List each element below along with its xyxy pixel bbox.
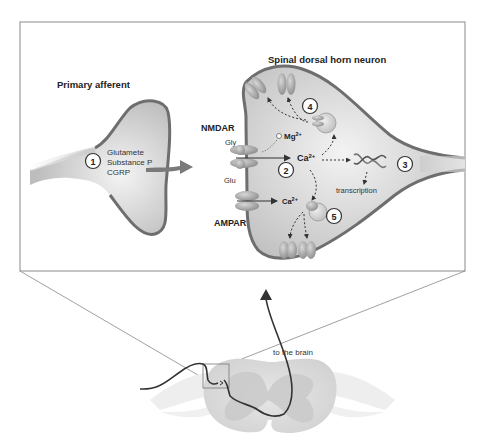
step-1-badge: 1 — [86, 154, 101, 169]
svg-text:5: 5 — [331, 212, 336, 222]
mg-ion-icon — [277, 134, 282, 139]
step-2-badge: 2 — [279, 163, 294, 178]
zoom-line-left — [20, 271, 203, 378]
svg-text:1: 1 — [90, 157, 95, 167]
step-5-badge: 5 — [327, 209, 342, 224]
transmitter-substance-p: Substance P — [107, 158, 152, 167]
to-brain-arrowhead-icon — [260, 289, 272, 300]
step-4-badge: 4 — [303, 99, 318, 114]
ampar-label: AMPAR — [214, 218, 247, 228]
to-brain-label: to the brain — [273, 348, 313, 357]
step-3-badge: 3 — [398, 157, 413, 172]
nmdar-label: NMDAR — [201, 123, 235, 133]
pain-pathway-diagram: 1 2 3 4 5 Primary afferent Spinal dorsal… — [0, 0, 482, 441]
transmitter-glutamate: Glutamete — [107, 148, 144, 157]
svg-text:2: 2 — [283, 166, 288, 176]
dorsal-horn-neuron-title: Spinal dorsal horn neuron — [268, 54, 386, 65]
svg-text:3: 3 — [402, 160, 407, 170]
transmitter-cgrp: CGRP — [107, 168, 130, 177]
primary-afferent-title: Primary afferent — [57, 79, 131, 90]
gly-label: Gly — [225, 138, 237, 147]
spinal-cord-cross-section — [150, 359, 395, 433]
glu-label: Glu — [224, 176, 236, 185]
transcription-label: transcription — [336, 186, 377, 195]
zoom-line-right — [229, 271, 465, 364]
svg-text:4: 4 — [307, 102, 312, 112]
